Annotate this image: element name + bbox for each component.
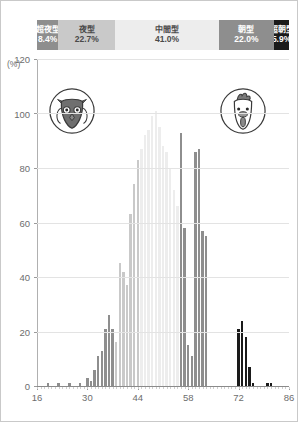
y-tick-mark [34,223,37,224]
x-tick-label: 16 [32,392,43,403]
histogram-bar [122,272,124,386]
histogram-bar [115,342,117,386]
y-gridline [37,332,289,333]
x-minor-tick [91,387,92,389]
x-minor-tick [246,387,247,389]
x-minor-tick [59,387,60,389]
x-minor-tick [69,387,70,389]
histogram-bar [68,383,70,386]
x-minor-tick [156,387,157,389]
chronotype-segment-value: 22.0% [234,35,258,44]
y-tick-label: 120 [14,54,30,65]
histogram-bar [97,356,99,386]
x-minor-tick [77,387,78,389]
x-minor-tick [138,387,139,389]
x-minor-tick [217,387,218,389]
histogram-bar [266,383,268,386]
x-minor-tick [203,387,204,389]
x-minor-tick [149,387,150,389]
histogram-bar [252,383,254,386]
x-minor-tick [41,387,42,389]
x-minor-tick [170,387,171,389]
x-minor-tick [113,387,114,389]
x-minor-tick [224,387,225,389]
x-minor-tick [37,387,38,389]
x-minor-tick [210,387,211,389]
x-minor-tick [206,387,207,389]
x-minor-tick [163,387,164,389]
x-minor-tick [145,387,146,389]
histogram-bar [151,116,153,386]
y-tick-mark [34,168,37,169]
x-minor-tick [141,387,142,389]
y-gridline [37,223,289,224]
x-tick-label: 44 [133,392,144,403]
x-minor-tick [95,387,96,389]
y-gridline [37,277,289,278]
x-minor-tick [159,387,160,389]
histogram-bar [57,383,59,386]
x-minor-tick [264,387,265,389]
y-tick-mark [34,277,37,278]
histogram-bar [126,285,128,386]
histogram-bar [90,381,92,386]
x-minor-tick [271,387,272,389]
histogram-bar [183,228,185,386]
x-minor-tick [177,387,178,389]
x-minor-tick [260,387,261,389]
x-minor-tick [98,387,99,389]
x-minor-tick [253,387,254,389]
x-minor-tick [195,387,196,389]
histogram-bar [47,383,49,386]
x-minor-tick [102,387,103,389]
x-minor-tick [257,387,258,389]
x-minor-tick [199,387,200,389]
chronotype-histogram-figure: 超夜型8.4%夜型22.7%中間型41.0%朝型22.0%超朝型5.9% (%) [0,0,298,422]
x-minor-tick [123,387,124,389]
x-minor-tick [285,387,286,389]
chronotype-segment-value: 5.9% [274,35,289,44]
histogram-bar [173,190,175,386]
x-minor-tick [188,387,189,389]
x-minor-tick [239,387,240,389]
chronotype-segment-value: 22.7% [75,35,99,44]
x-minor-tick [116,387,117,389]
y-tick-label: 0 [25,381,30,392]
histogram-bar [155,111,157,386]
histogram-bar [201,231,203,386]
histogram-bar [194,152,196,386]
histogram-bar [119,263,121,386]
histogram-bar [140,149,142,386]
chronotype-segment-value: 8.4% [38,35,57,44]
histogram-bar [101,351,103,386]
x-tick-label: 72 [233,392,244,403]
chronotype-segment-value: 41.0% [155,35,179,44]
x-minor-tick [235,387,236,389]
x-minor-tick [181,387,182,389]
histogram-bar [270,383,272,386]
x-minor-tick [62,387,63,389]
x-minor-tick [275,387,276,389]
chronotype-band: 超夜型8.4%夜型22.7%中間型41.0%朝型22.0%超朝型5.9% [37,20,289,50]
x-tick-label: 86 [284,392,295,403]
histogram-bar [241,321,243,386]
x-minor-tick [213,387,214,389]
y-tick-label: 100 [14,108,30,119]
x-tick-label: 58 [183,392,194,403]
x-minor-tick [289,387,290,389]
x-minor-tick [120,387,121,389]
y-tick-label: 80 [19,163,30,174]
chronotype-segment-1: 夜型22.7% [58,20,115,50]
histogram-bar [180,133,182,386]
x-minor-tick [185,387,186,389]
x-minor-tick [174,387,175,389]
x-minor-tick [134,387,135,389]
histogram-bar [205,236,207,386]
x-minor-tick [242,387,243,389]
x-minor-tick [80,387,81,389]
histogram-bar [158,127,160,386]
x-minor-tick [192,387,193,389]
y-tick-label: 20 [19,326,30,337]
y-gridline [37,168,289,169]
histogram-bar [104,329,106,386]
